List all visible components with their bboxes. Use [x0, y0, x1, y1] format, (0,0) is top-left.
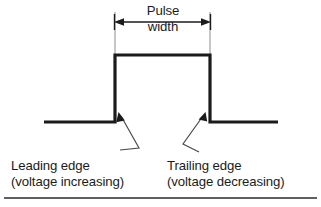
leading-edge-label-line2: (voltage increasing) — [11, 174, 124, 190]
leading-edge-label-line1: Leading edge — [11, 158, 124, 174]
pulse-width-label-line2: width — [128, 19, 198, 35]
pulse-waveform-trace — [44, 55, 278, 122]
pulse-width-label: Pulse width — [128, 3, 198, 34]
trailing-edge-leader-line — [183, 116, 203, 152]
leading-edge-arrowhead — [116, 112, 125, 122]
pulse-width-label-line1: Pulse — [128, 3, 198, 19]
trailing-edge-label-line2: (voltage decreasing) — [167, 174, 285, 190]
trailing-edge-label: Trailing edge (voltage decreasing) — [167, 158, 285, 189]
leading-edge-leader-line — [120, 116, 139, 150]
trailing-edge-label-line1: Trailing edge — [167, 158, 285, 174]
leading-edge-label: Leading edge (voltage increasing) — [11, 158, 124, 189]
pulse-waveform-diagram: Pulse width Leading edge (voltage increa… — [0, 0, 321, 207]
